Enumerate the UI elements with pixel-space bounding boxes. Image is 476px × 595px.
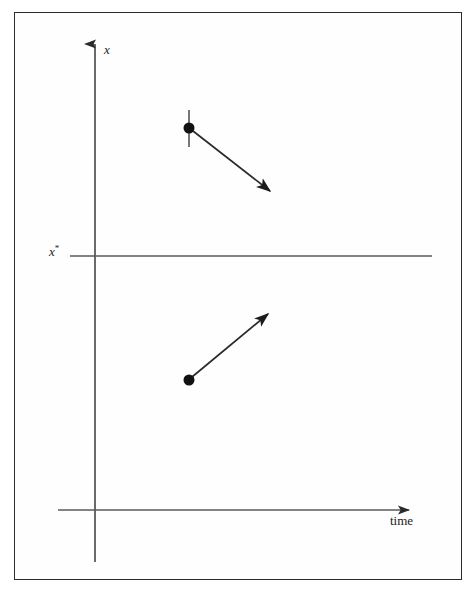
diagram-canvas bbox=[0, 0, 476, 595]
time-axis-label: time bbox=[390, 513, 413, 529]
lower-trajectory-arrow bbox=[192, 314, 268, 377]
x-axis-label: x bbox=[104, 42, 110, 58]
equilibrium-label-superscript: * bbox=[55, 243, 60, 253]
figure-page: x x* time bbox=[0, 0, 476, 595]
upper-trajectory-arrow bbox=[193, 131, 270, 191]
lower-start-dot bbox=[184, 375, 195, 386]
upper-start-dot bbox=[184, 123, 195, 134]
equilibrium-label: x* bbox=[49, 243, 59, 260]
